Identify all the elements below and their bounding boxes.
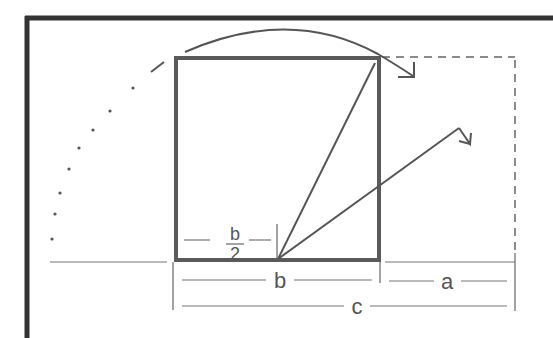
c-label: c [352,294,363,319]
half-b-dimension [184,240,271,244]
a-label: a [441,269,454,294]
half-b-numerator: b [230,224,240,244]
outer-frame [25,16,553,338]
line-midpoint-to-top-right [278,63,375,259]
b-label: b [274,268,286,293]
half-b-denominator: 2 [230,244,240,264]
diagram-canvas: b 2 b a c [0,0,553,338]
arrow-midpoint-extended [278,128,459,259]
diagonals [278,63,471,259]
left-dotted-arc [50,62,164,241]
dashed-rectangle [382,57,515,255]
